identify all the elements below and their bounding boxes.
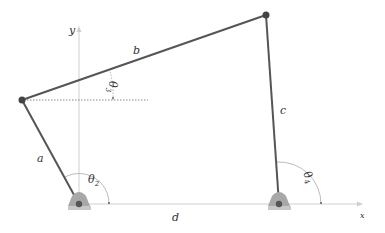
- link-a: [22, 100, 79, 204]
- ground-support-left: [68, 192, 91, 210]
- theta3-arc-end: [112, 97, 114, 99]
- link-b-label: b: [133, 44, 140, 57]
- x-axis-arrow: [357, 202, 363, 207]
- x-axis-label: x: [360, 211, 365, 220]
- theta2-label: θ2: [88, 173, 100, 188]
- link-c: [266, 15, 279, 204]
- ground-pivot-left: [76, 201, 82, 207]
- y-axis-arrow: [77, 26, 82, 32]
- diagram-svg: y x θ3 θ2 θ4 a b c d: [0, 0, 385, 233]
- theta2-arc-end: [108, 202, 110, 204]
- link-c-label: c: [280, 104, 286, 117]
- ground-pivot-right: [276, 201, 282, 207]
- link-d-label: d: [172, 211, 179, 224]
- link-b: [22, 15, 266, 100]
- joint-b-c: [263, 12, 270, 19]
- theta4-arc-end: [320, 202, 322, 204]
- link-a-label: a: [37, 152, 44, 165]
- four-bar-linkage-diagram: y x θ3 θ2 θ4 a b c d: [0, 0, 385, 233]
- joint-a-b: [19, 97, 26, 104]
- theta3-label: θ3: [104, 81, 119, 93]
- ground-support-right: [268, 192, 291, 210]
- theta4-label: θ4: [299, 169, 318, 186]
- y-axis-label: y: [68, 24, 76, 37]
